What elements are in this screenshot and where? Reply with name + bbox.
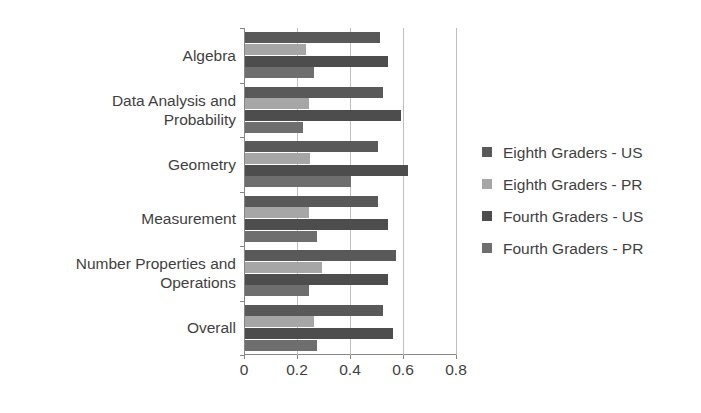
legend-label: Eighth Graders - US	[503, 143, 643, 162]
bar	[245, 196, 378, 207]
bar	[245, 285, 309, 296]
bar	[245, 262, 322, 273]
x-axis-tick-label: 0.8	[445, 360, 467, 380]
bar	[245, 328, 393, 339]
bar	[245, 67, 314, 78]
x-axis-tick	[297, 355, 298, 359]
bar	[245, 32, 380, 43]
x-axis-tick	[456, 355, 457, 359]
category-label: Algebra	[24, 46, 236, 65]
category-axis-tick	[240, 246, 244, 247]
x-axis-tick	[403, 355, 404, 359]
bar	[245, 231, 317, 242]
bar	[245, 219, 388, 230]
bar	[245, 110, 401, 121]
legend-label: Fourth Graders - PR	[503, 239, 643, 258]
legend-swatch-icon	[482, 179, 492, 189]
bar	[245, 305, 383, 316]
category-label: Number Properties and Operations	[24, 254, 236, 292]
x-axis-tick	[244, 355, 245, 359]
x-axis-tick-label: 0	[240, 360, 249, 380]
legend-label: Eighth Graders - PR	[503, 175, 643, 194]
gridline	[403, 28, 404, 355]
bar	[245, 153, 310, 164]
category-label: Geometry	[24, 155, 236, 174]
bar	[245, 176, 351, 187]
category-axis-tick	[240, 355, 244, 356]
chart-legend: Eighth Graders - USEighth Graders - PRFo…	[482, 136, 697, 264]
bar	[245, 122, 303, 133]
x-axis-tick-label: 0.4	[339, 360, 361, 380]
bar	[245, 165, 408, 176]
bar	[245, 316, 314, 327]
bar	[245, 207, 309, 218]
x-axis-tick-label: 0.2	[286, 360, 308, 380]
category-axis: AlgebraData Analysis and ProbabilityGeom…	[20, 28, 242, 355]
category-label: Data Analysis and Probability	[24, 91, 236, 129]
legend-item[interactable]: Eighth Graders - PR	[482, 168, 697, 200]
bar	[245, 250, 396, 261]
gridline	[456, 28, 457, 355]
bar	[245, 87, 383, 98]
bar	[245, 98, 309, 109]
x-axis-tick-label: 0.6	[392, 360, 414, 380]
x-axis-tick	[350, 355, 351, 359]
legend-label: Fourth Graders - US	[503, 207, 643, 226]
bar	[245, 274, 388, 285]
bar	[245, 44, 306, 55]
bar	[245, 340, 317, 351]
legend-swatch-icon	[482, 211, 492, 221]
category-axis-tick	[240, 137, 244, 138]
category-axis-tick	[240, 28, 244, 29]
category-axis-tick	[240, 192, 244, 193]
bar	[245, 56, 388, 67]
legend-item[interactable]: Fourth Graders - US	[482, 200, 697, 232]
legend-item[interactable]: Eighth Graders - US	[482, 136, 697, 168]
plot-area	[244, 28, 456, 355]
value-axis-labels: 00.20.40.60.8	[0, 360, 701, 386]
category-label: Measurement	[24, 209, 236, 228]
category-axis-tick	[240, 83, 244, 84]
legend-swatch-icon	[482, 243, 492, 253]
bar-chart: AlgebraData Analysis and ProbabilityGeom…	[0, 0, 701, 413]
bar	[245, 141, 378, 152]
legend-swatch-icon	[482, 147, 492, 157]
category-label: Overall	[24, 318, 236, 337]
legend-item[interactable]: Fourth Graders - PR	[482, 232, 697, 264]
category-axis-tick	[240, 301, 244, 302]
